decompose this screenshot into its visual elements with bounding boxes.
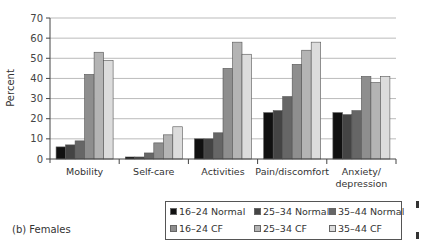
legend-label: 35–44 Normal: [338, 206, 404, 217]
y-tick-label: 60: [30, 33, 43, 44]
x-axis: MobilitySelf-careActivitiesPain/discomfo…: [50, 159, 396, 189]
bar: [66, 145, 76, 159]
legend-item: 16–24 CF: [170, 223, 223, 234]
bar: [342, 115, 352, 159]
legend-swatch: [329, 208, 336, 215]
legend-item: 25–34 Normal: [254, 206, 329, 217]
legend-label: 25–34 Normal: [263, 206, 329, 217]
y-tick-label: 70: [30, 13, 43, 24]
legend-swatch: [254, 208, 261, 215]
y-tick-label: 30: [30, 93, 43, 104]
bar: [214, 133, 224, 159]
legend-swatch: [170, 208, 177, 215]
legend-swatch: [254, 225, 261, 232]
legend-label: 25–34 CF: [263, 223, 307, 234]
bar: [223, 68, 233, 159]
legend-label: 35–44 CF: [338, 223, 382, 234]
bar: [94, 52, 104, 159]
bar: [75, 141, 85, 159]
bar: [173, 127, 183, 159]
bar: [233, 42, 243, 159]
bar: [273, 111, 283, 159]
y-tick-label: 20: [30, 113, 43, 124]
bar: [204, 139, 214, 159]
figure-caption: (b) Females: [12, 224, 71, 235]
cropped-edge-mark: [416, 201, 419, 208]
y-tick-label: 0: [37, 154, 43, 165]
y-axis-label: Percent: [5, 69, 16, 107]
bar: [371, 82, 381, 159]
x-tick-label: Pain/discomfort: [255, 166, 329, 177]
bar: [361, 76, 371, 159]
bar: [104, 60, 114, 159]
legend-swatch: [170, 225, 177, 232]
bar: [144, 153, 154, 159]
bar-chart: 010203040506070 MobilitySelf-careActivit…: [0, 0, 421, 200]
y-axis: 010203040506070: [30, 13, 50, 165]
x-tick-label: Mobility: [66, 166, 104, 177]
x-tick-label: depression: [335, 178, 387, 189]
bar: [154, 143, 164, 159]
bar: [292, 64, 302, 159]
legend-swatch: [329, 225, 336, 232]
y-tick-label: 10: [30, 133, 43, 144]
cropped-edge-mark: [416, 232, 419, 239]
y-tick-label: 40: [30, 73, 43, 84]
x-tick-label: Self-care: [133, 166, 175, 177]
legend: 16–24 Normal25–34 Normal35–44 Normal16–2…: [165, 201, 402, 240]
bar: [311, 42, 321, 159]
bar: [163, 135, 173, 159]
legend-item: 35–44 Normal: [329, 206, 404, 217]
legend-item: 25–34 CF: [254, 223, 307, 234]
bar: [264, 113, 274, 159]
bar: [352, 111, 362, 159]
bar: [283, 97, 293, 159]
legend-label: 16–24 Normal: [179, 206, 245, 217]
legend-item: 16–24 Normal: [170, 206, 245, 217]
bar: [380, 76, 390, 159]
y-tick-label: 50: [30, 53, 43, 64]
bar: [302, 50, 312, 159]
legend-item: 35–44 CF: [329, 223, 382, 234]
legend-label: 16–24 CF: [179, 223, 223, 234]
bar: [85, 74, 95, 159]
bars: [56, 42, 390, 159]
bar: [333, 113, 343, 159]
bar: [195, 139, 205, 159]
bar: [242, 54, 252, 159]
x-tick-label: Activities: [201, 166, 244, 177]
x-tick-label: Anxiety/: [342, 166, 382, 177]
bar: [56, 147, 66, 159]
